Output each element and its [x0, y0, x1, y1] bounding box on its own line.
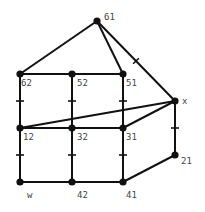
node-layer [16, 17, 178, 185]
tick-layer [16, 58, 179, 155]
node-62 [16, 70, 23, 77]
node-label-21: 21 [181, 156, 192, 166]
node-41 [119, 178, 126, 185]
node-label-41: 41 [126, 190, 137, 200]
node-52 [68, 70, 75, 77]
node-51 [119, 70, 126, 77]
node-label-32: 32 [77, 132, 88, 142]
node-61 [93, 17, 100, 24]
edge-61-51 [97, 21, 123, 74]
node-label-62: 62 [21, 78, 32, 88]
node-label-42: 42 [77, 190, 88, 200]
node-label-x: x [182, 96, 188, 106]
node-label-52: 52 [77, 78, 88, 88]
edge-41-21 [123, 155, 175, 182]
edge-12-x [20, 101, 175, 128]
node-w [16, 178, 23, 185]
node-label-51: 51 [126, 78, 137, 88]
node-label-12: 12 [23, 132, 34, 142]
graph-diagram: 61625251x12323121w4241 [0, 0, 205, 212]
edge-61-62 [20, 21, 97, 74]
edge-layer [20, 21, 175, 182]
node-21 [171, 151, 178, 158]
node-label-31: 31 [126, 132, 137, 142]
node-31 [119, 124, 126, 131]
node-label-w: w [27, 190, 33, 200]
node-x [171, 97, 178, 104]
node-32 [68, 124, 75, 131]
node-label-61: 61 [104, 12, 115, 22]
node-42 [68, 178, 75, 185]
node-12 [16, 124, 23, 131]
